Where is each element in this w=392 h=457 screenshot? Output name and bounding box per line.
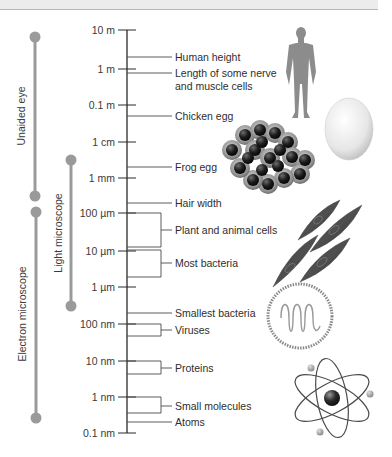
item-label-most-bacteria: Most bacteria	[175, 257, 238, 269]
item-label-viruses: Viruses	[175, 324, 210, 336]
item-label-proteins: Proteins	[175, 362, 214, 374]
human-silhouette-icon	[286, 27, 316, 118]
item-connectors	[127, 57, 172, 422]
size-scale-diagram: Unaided eye Electron microscope Light mi…	[0, 0, 392, 457]
tick-label: 0.1 m	[89, 99, 116, 111]
plant-animal-cells-icon	[273, 200, 362, 287]
item-label-atoms: Atoms	[175, 416, 205, 428]
tick-label: 100 nm	[80, 318, 115, 330]
item-label-nerve-cells-line2: and muscle cells	[175, 80, 253, 92]
tick-label: 10 m	[92, 24, 116, 36]
frog-egg-cluster-icon	[222, 120, 315, 194]
range-unaided-eye: Unaided eye	[15, 32, 41, 202]
item-label-chicken-egg: Chicken egg	[175, 110, 234, 122]
tick-label: 0.1 nm	[83, 427, 115, 439]
tick-label: 1 mm	[89, 172, 116, 184]
item-label-hair-width: Hair width	[175, 197, 222, 209]
tick-label: 1 cm	[92, 136, 115, 148]
item-label-nerve-cells: Length of some nerve	[175, 67, 277, 79]
range-electron-microscope: Electron microscope	[16, 207, 42, 424]
tick-label: 10 µm	[86, 245, 116, 257]
range-light-microscope: Light microscope	[52, 155, 77, 312]
item-label-small-molecules: Small molecules	[175, 400, 251, 412]
range-label-electron-microscope: Electron microscope	[16, 266, 28, 361]
item-label-human-height: Human height	[175, 51, 240, 63]
tick-label: 1 nm	[92, 391, 116, 403]
tick-label: 1 µm	[91, 281, 115, 293]
bacterium-icon	[268, 284, 332, 348]
tick-label: 10 nm	[86, 355, 115, 367]
item-label-smallest-bacteria: Smallest bacteria	[175, 307, 256, 319]
range-label-light-microscope: Light microscope	[52, 193, 64, 273]
item-labels: Human height Length of some nerve and mu…	[175, 51, 277, 428]
item-label-plant-animal-cells: Plant and animal cells	[175, 224, 277, 236]
range-label-unaided-eye: Unaided eye	[15, 86, 27, 145]
chicken-egg-icon	[325, 98, 373, 160]
atom-icon	[289, 356, 375, 440]
tick-label: 1 m	[97, 63, 115, 75]
item-label-frog-egg: Frog egg	[175, 161, 217, 173]
tick-label: 100 µm	[80, 207, 115, 219]
